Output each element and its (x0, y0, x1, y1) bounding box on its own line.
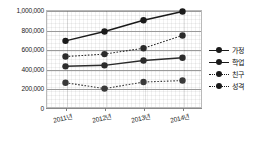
legend-marker-dotted-icon (209, 81, 229, 91)
data-point (140, 45, 146, 51)
legend-marker-dotted-icon (209, 69, 229, 79)
y-tick-label: 1,000,000 (0, 7, 44, 14)
data-point (140, 79, 146, 85)
series-학업 (62, 55, 185, 70)
y-tick-label: 800,000 (0, 27, 44, 34)
legend-marker-solid-icon (209, 45, 229, 55)
legend-item-hageop[interactable]: 학업 (209, 56, 271, 68)
x-tick-label-2012: 2012년 (91, 111, 112, 125)
legend-item-gajeong[interactable]: 가정 (209, 44, 271, 56)
legend-marker-solid-icon (209, 57, 229, 67)
data-point (140, 17, 146, 23)
x-tick-label-2011: 2011년 (52, 111, 73, 125)
legend-label: 성격 (232, 81, 244, 91)
data-point (62, 38, 68, 44)
data-point (179, 77, 185, 83)
series-성격 (62, 32, 185, 59)
data-point (101, 85, 107, 91)
legend-item-chingu[interactable]: 친구 (209, 68, 271, 80)
y-tick-label: 600,000 (0, 46, 44, 53)
series-line (66, 11, 183, 40)
legend-item-seonggyeok[interactable]: 성격 (209, 80, 271, 92)
data-point (179, 32, 185, 38)
data-point (62, 80, 68, 86)
data-point (62, 63, 68, 69)
chart-legend: 가정 학업 친구 성격 (209, 44, 271, 92)
y-axis-labels: 1,000,000 800,000 600,000 400,000 200,00… (0, 0, 44, 142)
series-친구 (62, 77, 185, 91)
x-tick-label-2013: 2013년 (130, 111, 151, 125)
data-point (179, 8, 185, 14)
series-line (66, 58, 183, 67)
data-point (101, 51, 107, 57)
series-line (66, 35, 183, 56)
x-axis-line (46, 108, 202, 109)
x-tick-label-2014: 2014년 (169, 111, 190, 125)
data-series-layer (46, 10, 202, 108)
series-가정 (62, 8, 185, 44)
y-tick-label: 400,000 (0, 66, 44, 73)
legend-label: 가정 (232, 45, 244, 55)
line-chart: 1,000,000 800,000 600,000 400,000 200,00… (0, 0, 274, 142)
series-line (66, 81, 183, 89)
data-point (62, 53, 68, 59)
legend-label: 친구 (232, 69, 244, 79)
y-tick-label: 0 (0, 105, 44, 112)
data-point (140, 57, 146, 63)
data-point (101, 62, 107, 68)
data-point (101, 28, 107, 34)
data-point (179, 55, 185, 61)
y-tick-label: 200,000 (0, 85, 44, 92)
legend-label: 학업 (232, 57, 244, 67)
